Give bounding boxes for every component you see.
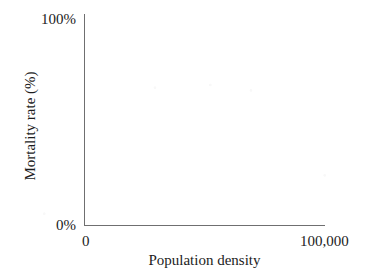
chart-figure: 100% 0% 0 100,000 Mortality rate (%) Pop… bbox=[0, 0, 369, 274]
plot-area bbox=[85, 14, 325, 225]
x-axis-title: Population density bbox=[84, 252, 325, 269]
x-axis-tick-label-max: 100,000 bbox=[300, 234, 349, 249]
x-axis-tick-label-min: 0 bbox=[82, 234, 90, 249]
x-axis-line bbox=[84, 225, 325, 226]
y-axis-line bbox=[84, 14, 85, 226]
y-axis-title: Mortality rate (%) bbox=[20, 20, 40, 232]
y-axis-tick-label-max: 100% bbox=[41, 12, 76, 27]
y-axis-tick-label-min: 0% bbox=[56, 218, 76, 233]
